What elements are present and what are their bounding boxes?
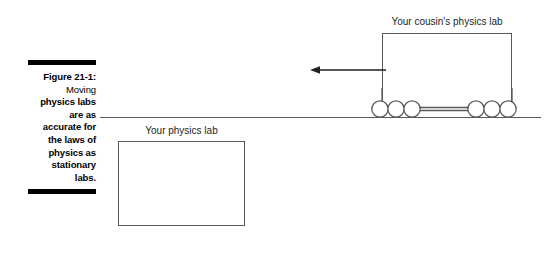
figure-caption-line-5: physics as: [48, 147, 96, 158]
figure-number-label: Figure 21-1:: [43, 71, 96, 82]
figure-caption-line-0: Moving: [66, 84, 96, 95]
figure-caption-text: Figure 21-1: Moving physics labs are as …: [28, 71, 96, 184]
figure-caption-line-7: labs.: [75, 172, 96, 183]
moving-lab-label: Your cousin's physics lab: [382, 15, 512, 28]
cart-wheels-svg: [364, 88, 524, 120]
wheel-6: [500, 101, 516, 117]
figure-caption-line-1: physics labs: [40, 96, 96, 107]
motion-arrow-svg: [310, 62, 386, 78]
figure-canvas: Figure 21-1: Moving physics labs are as …: [0, 0, 548, 254]
wheel-5: [484, 101, 500, 117]
wheel-2: [388, 101, 404, 117]
wheel-4: [468, 101, 484, 117]
cart-undercarriage: [364, 88, 524, 120]
figure-caption-line-4: the laws of: [48, 134, 96, 145]
caption-rule-top: [28, 60, 96, 65]
motion-arrow-head: [310, 66, 320, 74]
caption-rule-bottom: [28, 189, 96, 194]
stationary-lab-label: Your physics lab: [118, 124, 245, 137]
figure-caption-line-6: stationary: [52, 159, 96, 170]
wheel-3: [404, 101, 420, 117]
motion-arrow: [310, 62, 386, 78]
figure-caption-line-2: are as: [69, 109, 96, 120]
figure-caption-block: Figure 21-1: Moving physics labs are as …: [28, 60, 96, 194]
stationary-lab-box: [118, 141, 245, 226]
figure-caption-line-3: accurate for: [43, 121, 96, 132]
wheel-1: [372, 101, 388, 117]
